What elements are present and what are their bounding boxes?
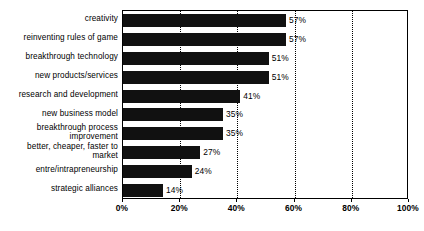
category-label: breakthrough process improvement [0,124,118,142]
bar [123,165,192,178]
bar-value-label: 57% [289,14,306,27]
bar-value-label: 24% [195,165,212,178]
x-tick-label: 0% [116,203,128,213]
bar [123,146,200,159]
bar-value-label: 35% [226,108,243,121]
bar-value-label: 27% [203,146,220,159]
bar-chart: creativityreinventing rules of gamebreak… [0,0,424,231]
bar-value-label: 51% [272,52,289,65]
x-tick-label: 100% [397,203,419,213]
gridline-80pct [352,11,353,198]
category-label: reinventing rules of game [0,34,118,43]
bar-value-label: 51% [272,71,289,84]
bar [123,90,240,103]
bar [123,14,286,27]
x-axis: 0%20%40%60%80%100% [122,199,408,221]
bar-value-label: 57% [289,33,306,46]
category-label: better, cheaper, faster to market [0,143,118,161]
plot-area: 57%57%51%51%41%35%35%27%24%14% [122,10,408,199]
x-tick-label: 80% [342,203,359,213]
category-label: strategic alliances [0,185,118,194]
category-label: creativity [0,15,118,24]
category-label: new products/services [0,72,118,81]
bar [123,127,223,140]
x-tick-mark [179,199,180,202]
category-label: entre/intrapreneurship [0,166,118,175]
x-tick-mark [236,199,237,202]
x-tick-mark [408,199,409,202]
x-tick-label: 40% [228,203,245,213]
category-label: new business model [0,110,118,119]
x-tick-label: 60% [285,203,302,213]
category-axis: creativityreinventing rules of gamebreak… [0,10,120,199]
x-tick-mark [351,199,352,202]
category-label: breakthrough technology [0,53,118,62]
bar-value-label: 14% [166,184,183,197]
category-label: research and development [0,91,118,100]
bar [123,71,269,84]
bar [123,108,223,121]
bar-value-label: 35% [226,127,243,140]
x-tick-mark [122,199,123,202]
bar [123,184,163,197]
x-tick-mark [294,199,295,202]
bar [123,52,269,65]
bar [123,33,286,46]
bar-value-label: 41% [243,90,260,103]
x-tick-label: 20% [171,203,188,213]
